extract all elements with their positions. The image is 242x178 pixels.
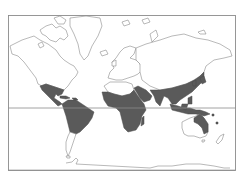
arctic-islands-outline [40,24,68,42]
world-map [0,0,242,178]
north-america-outline [10,36,78,90]
antarctica-outline [66,158,230,168]
tierra-del-fuego-outline [66,156,70,158]
new-zealand-outline [216,134,224,144]
south-america-south-outline [66,132,76,156]
novaya-zemlya-outline [150,30,158,42]
greenland-outline [70,16,102,60]
south-america-shaded [62,100,94,138]
siberian-islands-outline [198,30,206,34]
caribbean-shaded [72,98,78,100]
philippines-shaded [188,96,192,104]
pacific-island-shaded [212,114,214,116]
caribbean-shaded [60,96,70,99]
iceland-outline [100,50,108,56]
pacific-island-shaded [216,122,218,124]
world-map-svg [0,0,242,178]
arctic-island-outline [54,16,66,24]
indonesia-shaded [170,104,210,116]
asia-north-outline [136,34,232,90]
svalbard-outline [122,20,130,26]
tasmania-outline [202,140,205,142]
franz-josef-outline [142,18,150,24]
british-isles-outline [112,60,116,66]
